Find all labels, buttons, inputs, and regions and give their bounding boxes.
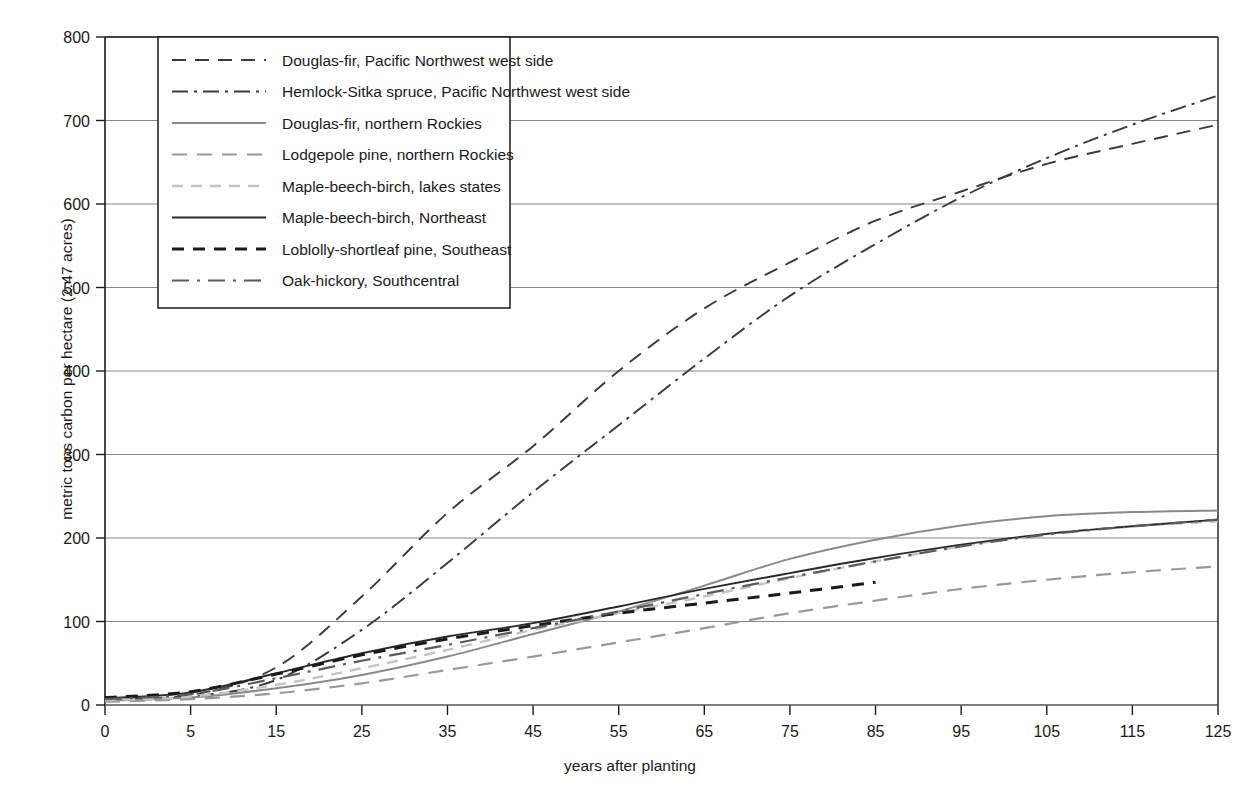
x-tick-label: 105 (1033, 723, 1060, 740)
x-tick-label: 35 (439, 723, 457, 740)
y-tick-label: 500 (63, 280, 90, 297)
x-tick-label: 95 (952, 723, 970, 740)
x-tick-label: 0 (101, 723, 110, 740)
legend-box (158, 37, 510, 308)
x-tick-label: 25 (353, 723, 371, 740)
x-tick-label: 55 (610, 723, 628, 740)
y-tick-label: 400 (63, 363, 90, 380)
series-line-7 (105, 520, 1218, 700)
legend-label-2: Douglas-fir, northern Rockies (282, 115, 482, 132)
y-tick-label: 800 (63, 29, 90, 46)
legend-label-1: Hemlock-Sitka spruce, Pacific Northwest … (282, 83, 630, 100)
legend-label-6: Loblolly-shortleaf pine, Southeast (282, 241, 512, 258)
legend-label-7: Oak-hickory, Southcentral (282, 272, 459, 289)
y-tick-label: 300 (63, 447, 90, 464)
series-line-2 (105, 510, 1218, 700)
legend-label-5: Maple-beech-birch, Northeast (282, 209, 487, 226)
series-line-4 (105, 521, 1218, 700)
y-tick-label: 600 (63, 196, 90, 213)
x-tick-label: 45 (524, 723, 542, 740)
x-tick-label: 125 (1205, 723, 1232, 740)
x-tick-label: 75 (781, 723, 799, 740)
y-tick-label: 0 (81, 697, 90, 714)
x-tick-label: 65 (695, 723, 713, 740)
x-tick-label: 85 (867, 723, 885, 740)
legend-label-4: Maple-beech-birch, lakes states (282, 178, 501, 195)
y-axis-ticks: 0100200300400500600700800 (63, 29, 105, 714)
x-axis-ticks: 05152535455565758595105115125 (101, 705, 1232, 740)
chart-figure: metric tons carbon per hectare (2.47 acr… (0, 0, 1260, 800)
x-tick-label: 15 (267, 723, 285, 740)
legend-label-0: Douglas-fir, Pacific Northwest west side (282, 52, 553, 69)
y-tick-label: 700 (63, 113, 90, 130)
legend-label-3: Lodgepole pine, northern Rockies (282, 146, 514, 163)
plot-area: 0100200300400500600700800 05152535455565… (0, 0, 1260, 800)
x-tick-label: 115 (1120, 723, 1146, 740)
series-line-5 (105, 520, 1218, 699)
y-tick-label: 100 (63, 614, 90, 631)
legend: Douglas-fir, Pacific Northwest west side… (158, 37, 630, 308)
x-tick-label: 5 (186, 723, 195, 740)
y-tick-label: 200 (63, 530, 90, 547)
